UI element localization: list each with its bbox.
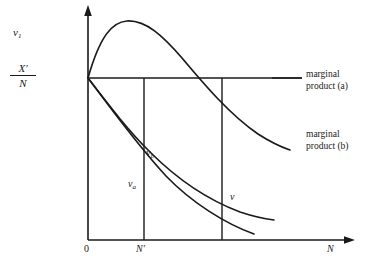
point-label-vb: vb — [146, 147, 154, 158]
vb-curve — [88, 78, 274, 220]
point-label-v: v — [230, 191, 234, 202]
x-axis-label: N — [327, 243, 334, 254]
point-label-va: va — [128, 178, 136, 189]
y-axis-label: v1 — [13, 26, 21, 38]
x-tick-label-nprime: N′ — [136, 243, 145, 254]
marginal-product-b-label: marginal product (b) — [306, 129, 348, 153]
mp-a-line2: product (a) — [306, 81, 348, 91]
marginal-product-a-label: marginal product (a) — [306, 69, 348, 93]
mp-a-line1: marginal — [306, 69, 340, 79]
level-label-x-over-n: X′ N — [8, 62, 38, 90]
va-curve — [88, 78, 254, 234]
level-numerator: X′ — [8, 62, 38, 74]
origin-label: 0 — [84, 243, 89, 254]
fraction-bar — [10, 75, 36, 76]
mp-b-line2: product (b) — [306, 141, 348, 151]
y-axis — [84, 5, 92, 240]
hump-curve — [88, 21, 290, 150]
level-denominator: N — [8, 77, 38, 89]
mp-b-line1: marginal — [306, 129, 340, 139]
